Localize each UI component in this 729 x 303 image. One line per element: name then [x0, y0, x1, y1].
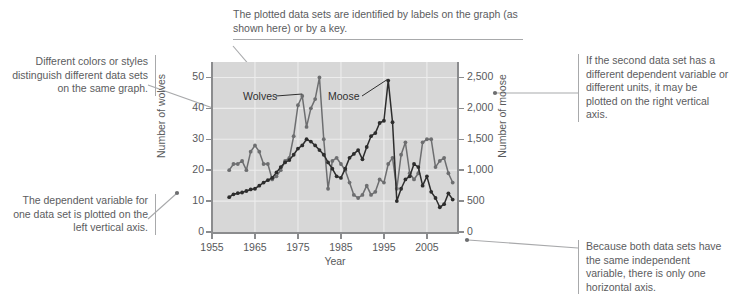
- left-tick-mark: [206, 108, 211, 109]
- left-axis-line: [211, 62, 213, 232]
- x-axis-line: [211, 232, 459, 234]
- x-tick-label: 1985: [317, 241, 365, 253]
- left-tick-mark: [206, 200, 211, 201]
- left-tick-label: 20: [166, 163, 204, 175]
- x-tick-mark: [297, 234, 298, 239]
- annotation-right-top: If the second data set has a different d…: [578, 54, 729, 122]
- series-label-wolves: Wolves: [243, 90, 277, 102]
- right-tick-label: 0: [467, 225, 511, 237]
- left-tick-label: 0: [166, 225, 204, 237]
- x-tick-mark: [426, 234, 427, 239]
- left-tick-mark: [206, 77, 211, 78]
- annotation-right-bottom: Because both data sets have the same ind…: [578, 240, 729, 294]
- right-tick-label: 1,000: [467, 163, 511, 175]
- annotation-left-top: Different colors or styles distinguish d…: [10, 55, 156, 96]
- x-tick-label: 1955: [188, 241, 236, 253]
- x-tick-mark: [383, 234, 384, 239]
- right-axis-line: [457, 62, 459, 232]
- right-tick-mark: [459, 108, 464, 109]
- x-tick-label: 1995: [360, 241, 408, 253]
- x-tick-label: 1965: [231, 241, 279, 253]
- left-tick-label: 50: [166, 70, 204, 82]
- x-axis-title: Year: [211, 255, 459, 267]
- left-tick-label: 40: [166, 101, 204, 113]
- right-tick-label: 1,500: [467, 132, 511, 144]
- x-tick-mark: [211, 234, 212, 239]
- x-tick-label: 2005: [403, 241, 451, 253]
- plot-canvas: [212, 62, 457, 232]
- right-tick-label: 500: [467, 194, 511, 206]
- right-tick-mark: [459, 169, 464, 170]
- left-tick-mark: [206, 139, 211, 140]
- left-tick-label: 10: [166, 194, 204, 206]
- x-tick-mark: [254, 234, 255, 239]
- plot-area: [212, 62, 457, 232]
- right-tick-mark: [459, 231, 464, 232]
- series-label-moose: Moose: [328, 90, 360, 102]
- x-tick-mark: [340, 234, 341, 239]
- left-tick-label: 30: [166, 132, 204, 144]
- right-tick-mark: [459, 139, 464, 140]
- right-tick-label: 2,000: [467, 101, 511, 113]
- annotation-left-bottom: The dependent variable for one data set …: [10, 194, 156, 235]
- figure-root: The plotted data sets are identified by …: [0, 0, 729, 303]
- right-tick-label: 2,500: [467, 70, 511, 82]
- annotation-top: The plotted data sets are identified by …: [233, 8, 523, 40]
- line-chart: Number of wolves Number of moose Year Wo…: [150, 50, 480, 275]
- left-tick-mark: [206, 231, 211, 232]
- left-tick-mark: [206, 169, 211, 170]
- right-tick-mark: [459, 200, 464, 201]
- x-tick-label: 1975: [274, 241, 322, 253]
- right-tick-mark: [459, 77, 464, 78]
